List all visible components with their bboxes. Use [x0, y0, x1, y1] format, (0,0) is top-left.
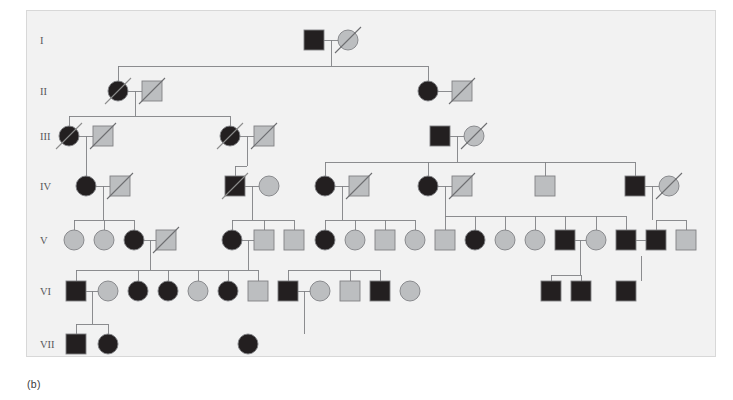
pedigree-symbol-circle-unaffected[interactable] [405, 230, 425, 250]
female-circle-icon [94, 230, 114, 250]
pedigree-symbol-square-unaffected[interactable] [375, 230, 395, 250]
pedigree-symbol-square-unaffected[interactable] [284, 230, 304, 250]
pedigree-symbol-circle-affected[interactable] [465, 230, 485, 250]
pedigree-symbol-circle-affected[interactable] [222, 230, 242, 250]
pedigree-drawing: IIIIIIIVVVIVII [0, 0, 733, 400]
female-circle-icon [259, 176, 279, 196]
pedigree-symbol-circle-affected[interactable] [98, 334, 118, 354]
pedigree-symbol-square-unaffected[interactable] [435, 230, 455, 250]
female-circle-icon [98, 334, 118, 354]
pedigree-symbol-square-affected[interactable] [646, 230, 666, 250]
female-circle-icon [310, 281, 330, 301]
female-circle-icon [345, 230, 365, 250]
pedigree-symbol-circle-unaffected[interactable] [98, 281, 118, 301]
male-square-icon [616, 230, 636, 250]
female-circle-icon [465, 230, 485, 250]
male-square-icon [676, 230, 696, 250]
male-square-icon [535, 176, 555, 196]
pedigree-symbol-circle-unaffected[interactable] [345, 230, 365, 250]
generation-label: VII [40, 339, 55, 350]
generation-label: III [40, 131, 51, 142]
pedigree-figure-root: IIIIIIIVVVIVII (b) [0, 0, 733, 400]
pedigree-symbol-square-unaffected[interactable] [254, 230, 274, 250]
pedigree-symbol-square-unaffected[interactable] [535, 176, 555, 196]
generation-label: V [40, 235, 48, 246]
pedigree-symbol-square-unaffected[interactable] [90, 123, 116, 149]
pedigree-symbol-square-unaffected[interactable] [346, 173, 372, 199]
pedigree-symbol-circle-affected[interactable] [315, 230, 335, 250]
pedigree-symbol-circle-unaffected[interactable] [586, 230, 606, 250]
male-square-icon [571, 281, 591, 301]
pedigree-symbol-circle-affected[interactable] [56, 123, 82, 149]
pedigree-symbol-square-affected[interactable] [555, 230, 575, 250]
generation-label-group: IIIIIIIVVVIVII [40, 35, 55, 350]
pedigree-symbol-square-unaffected[interactable] [107, 173, 133, 199]
pedigree-symbol-circle-unaffected[interactable] [335, 27, 361, 53]
pedigree-symbol-circle-affected[interactable] [124, 230, 144, 250]
pedigree-symbol-circle-unaffected[interactable] [525, 230, 545, 250]
pedigree-symbol-square-affected[interactable] [304, 30, 324, 50]
pedigree-symbol-square-affected[interactable] [430, 126, 450, 146]
pedigree-symbol-group [56, 27, 696, 354]
female-circle-icon [418, 176, 438, 196]
male-square-icon [555, 230, 575, 250]
female-circle-icon [218, 281, 238, 301]
pedigree-symbol-circle-affected[interactable] [418, 176, 438, 196]
pedigree-symbol-square-unaffected[interactable] [251, 123, 277, 149]
male-square-icon [375, 230, 395, 250]
pedigree-symbol-circle-affected[interactable] [128, 281, 148, 301]
generation-label: IV [40, 181, 51, 192]
pedigree-symbol-circle-affected[interactable] [158, 281, 178, 301]
pedigree-symbol-square-affected[interactable] [616, 230, 636, 250]
pedigree-symbol-square-affected[interactable] [571, 281, 591, 301]
pedigree-symbol-circle-affected[interactable] [218, 281, 238, 301]
pedigree-symbol-square-affected[interactable] [66, 281, 86, 301]
pedigree-symbol-square-unaffected[interactable] [340, 281, 360, 301]
male-square-icon [616, 281, 636, 301]
pedigree-symbol-square-unaffected[interactable] [449, 78, 475, 104]
pedigree-symbol-circle-affected[interactable] [217, 123, 243, 149]
female-circle-icon [158, 281, 178, 301]
male-square-icon [284, 230, 304, 250]
pedigree-symbol-square-affected[interactable] [625, 176, 645, 196]
male-square-icon [340, 281, 360, 301]
pedigree-symbol-square-affected[interactable] [222, 173, 248, 199]
pedigree-symbol-square-unaffected[interactable] [248, 281, 268, 301]
pedigree-symbol-circle-unaffected[interactable] [188, 281, 208, 301]
pedigree-symbol-circle-affected[interactable] [105, 78, 131, 104]
pedigree-symbol-circle-unaffected[interactable] [495, 230, 515, 250]
male-square-icon [541, 281, 561, 301]
female-circle-icon [405, 230, 425, 250]
generation-label: II [40, 86, 47, 97]
pedigree-symbol-circle-affected[interactable] [238, 334, 258, 354]
pedigree-symbol-circle-unaffected[interactable] [259, 176, 279, 196]
pedigree-symbol-square-unaffected[interactable] [139, 78, 165, 104]
male-square-icon [435, 230, 455, 250]
pedigree-symbol-square-affected[interactable] [370, 281, 390, 301]
pedigree-symbol-circle-unaffected[interactable] [656, 173, 682, 199]
pedigree-symbol-square-affected[interactable] [66, 334, 86, 354]
pedigree-symbol-square-affected[interactable] [541, 281, 561, 301]
generation-label: VI [40, 286, 52, 297]
female-circle-icon [495, 230, 515, 250]
pedigree-symbol-circle-unaffected[interactable] [310, 281, 330, 301]
pedigree-symbol-square-unaffected[interactable] [676, 230, 696, 250]
pedigree-symbol-circle-affected[interactable] [315, 176, 335, 196]
pedigree-symbol-circle-affected[interactable] [76, 176, 96, 196]
pedigree-symbol-square-affected[interactable] [616, 281, 636, 301]
female-circle-icon [400, 281, 420, 301]
pedigree-symbol-circle-unaffected[interactable] [94, 230, 114, 250]
male-square-icon [370, 281, 390, 301]
pedigree-symbol-circle-unaffected[interactable] [400, 281, 420, 301]
pedigree-symbol-square-unaffected[interactable] [153, 227, 179, 253]
pedigree-symbol-circle-unaffected[interactable] [461, 123, 487, 149]
pedigree-symbol-square-unaffected[interactable] [449, 173, 475, 199]
pedigree-symbol-circle-unaffected[interactable] [64, 230, 84, 250]
pedigree-symbol-circle-affected[interactable] [418, 81, 438, 101]
female-circle-icon [586, 230, 606, 250]
female-circle-icon [315, 230, 335, 250]
male-square-icon [66, 281, 86, 301]
male-square-icon [254, 230, 274, 250]
female-circle-icon [76, 176, 96, 196]
pedigree-symbol-square-affected[interactable] [278, 281, 298, 301]
